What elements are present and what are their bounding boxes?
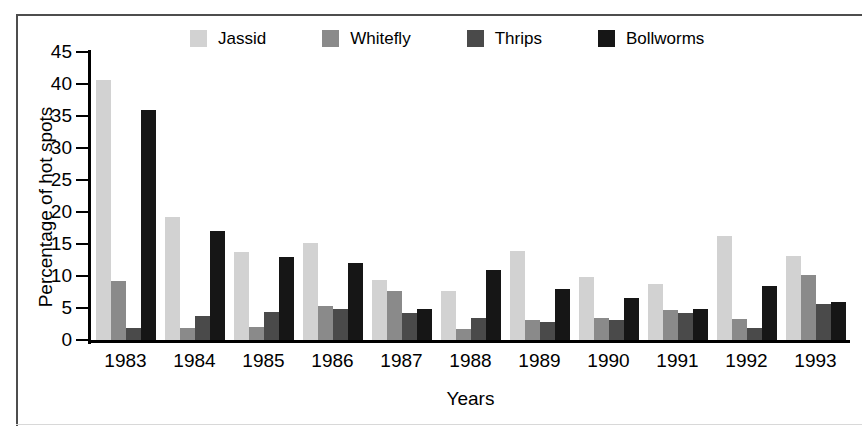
bar-group <box>712 52 781 340</box>
bar <box>594 318 609 340</box>
bar <box>663 310 678 340</box>
y-axis-tick <box>76 115 88 117</box>
bar <box>402 313 417 340</box>
bar-group <box>160 52 229 340</box>
bar <box>180 328 195 340</box>
y-axis-tick <box>76 307 88 309</box>
x-axis-tick-label: 1983 <box>91 350 160 372</box>
y-axis-tick <box>76 83 88 85</box>
bar <box>318 306 333 340</box>
x-axis-title: Years <box>91 388 850 410</box>
bar <box>801 275 816 340</box>
bar <box>471 318 486 340</box>
bar <box>648 284 663 340</box>
bar <box>747 328 762 340</box>
legend-item[interactable]: Jassid <box>190 30 266 47</box>
legend-swatch-icon <box>190 30 207 47</box>
legend-swatch-icon <box>322 30 339 47</box>
bar-group <box>643 52 712 340</box>
legend-item[interactable]: Bollworms <box>598 30 704 47</box>
bar <box>555 289 570 340</box>
x-axis-tick-label: 1985 <box>229 350 298 372</box>
chart-figure: JassidWhiteflyThripsBollworms 0510152025… <box>0 0 868 428</box>
x-axis-tick-label: 1991 <box>643 350 712 372</box>
legend-swatch-icon <box>598 30 615 47</box>
y-axis-tick <box>76 243 88 245</box>
x-axis-tick-label: 1987 <box>367 350 436 372</box>
bar <box>249 327 264 340</box>
y-axis-tick <box>76 339 88 341</box>
legend-item[interactable]: Thrips <box>467 30 542 47</box>
bar <box>525 320 540 340</box>
bar <box>831 302 846 340</box>
y-axis-tick <box>76 147 88 149</box>
bar-group <box>436 52 505 340</box>
bar-group <box>229 52 298 340</box>
bar <box>372 280 387 340</box>
y-axis-tick <box>76 275 88 277</box>
bar <box>417 309 432 340</box>
bar-groups <box>91 52 850 340</box>
x-axis-tick-label: 1990 <box>574 350 643 372</box>
bar <box>387 291 402 340</box>
y-axis-tick <box>76 51 88 53</box>
bar <box>111 281 126 340</box>
bar <box>210 231 225 340</box>
bar <box>816 304 831 340</box>
legend-label: Whitefly <box>350 30 410 47</box>
x-axis-tick-labels: 1983198419851986198719881989199019911992… <box>91 350 850 372</box>
bar <box>579 277 594 340</box>
bar-group <box>505 52 574 340</box>
legend-swatch-icon <box>467 30 484 47</box>
y-axis-title: Percentage of hot spots <box>35 57 57 357</box>
bar <box>717 236 732 340</box>
bar <box>141 110 156 340</box>
x-axis-tick-label: 1986 <box>298 350 367 372</box>
legend-item[interactable]: Whitefly <box>322 30 410 47</box>
bar-group <box>298 52 367 340</box>
legend-label: Jassid <box>218 30 266 47</box>
bar <box>762 286 777 340</box>
bar <box>486 270 501 340</box>
chart-legend: JassidWhiteflyThripsBollworms <box>190 26 704 50</box>
legend-label: Bollworms <box>626 30 704 47</box>
bar <box>348 263 363 340</box>
y-axis-tick <box>76 211 88 213</box>
bar <box>456 329 471 340</box>
bar <box>678 313 693 340</box>
x-axis-tick-label: 1992 <box>712 350 781 372</box>
x-axis-tick-label: 1988 <box>436 350 505 372</box>
x-axis-tick-label: 1984 <box>160 350 229 372</box>
bar <box>96 80 111 340</box>
figure-border-top <box>16 14 862 16</box>
legend-label: Thrips <box>495 30 542 47</box>
bar <box>165 217 180 340</box>
bar-group <box>574 52 643 340</box>
bar <box>333 309 348 340</box>
x-axis-tick-label: 1989 <box>505 350 574 372</box>
bar <box>303 243 318 340</box>
x-axis-tick-label: 1993 <box>781 350 850 372</box>
bar-group <box>91 52 160 340</box>
bar <box>624 298 639 340</box>
bar <box>279 257 294 340</box>
bar <box>510 251 525 340</box>
bar <box>693 309 708 340</box>
bar <box>234 252 249 340</box>
bar <box>609 320 624 340</box>
bar <box>195 316 210 340</box>
bar <box>540 322 555 340</box>
bar <box>126 328 141 340</box>
figure-border-bottom <box>16 424 862 425</box>
bar <box>264 312 279 340</box>
bar <box>786 256 801 340</box>
x-axis-line <box>88 340 850 343</box>
bar-group <box>781 52 850 340</box>
y-axis-tick <box>76 179 88 181</box>
bar-group <box>367 52 436 340</box>
bar <box>732 319 747 340</box>
bar <box>441 291 456 340</box>
